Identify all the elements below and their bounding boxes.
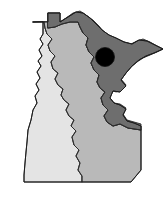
location-marker-dot[interactable] [96,48,115,67]
map-figure [0,0,168,206]
minnesota-map-svg [0,0,168,206]
